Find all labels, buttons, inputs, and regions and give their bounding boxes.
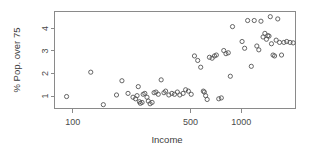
data-point — [282, 40, 286, 44]
data-point — [228, 74, 232, 78]
data-point — [252, 18, 256, 22]
plot-frame — [55, 12, 296, 109]
data-point — [259, 19, 263, 23]
data-point — [136, 85, 140, 89]
data-point — [277, 40, 281, 44]
data-point — [268, 15, 272, 19]
plot-canvas: 1005001000 1234 Income % Pop. over 75 — [0, 0, 309, 148]
data-point — [240, 39, 244, 43]
x-tick-label: 1000 — [231, 117, 251, 127]
data-point — [263, 31, 267, 35]
data-point — [192, 54, 196, 58]
y-axis-ticks — [51, 28, 55, 96]
data-point — [249, 64, 253, 68]
data-point — [205, 97, 209, 101]
data-point — [279, 53, 283, 57]
x-tick-label: 100 — [65, 117, 80, 127]
data-point — [276, 17, 280, 21]
data-point — [246, 18, 250, 22]
data-point — [189, 92, 193, 96]
data-point — [217, 97, 221, 101]
data-point — [64, 94, 68, 98]
data-point-group — [64, 15, 295, 107]
data-point — [243, 46, 247, 50]
y-tick-label: 4 — [41, 26, 51, 31]
data-point — [101, 103, 105, 107]
y-tick-label: 2 — [41, 71, 51, 76]
scatter-plot-figure: 1005001000 1234 Income % Pop. over 75 — [0, 0, 309, 148]
x-axis-title: Income — [151, 134, 182, 145]
data-point — [207, 55, 211, 59]
data-point — [120, 79, 124, 83]
x-tick-label: 500 — [183, 117, 198, 127]
data-point — [230, 25, 234, 29]
data-point — [199, 65, 203, 69]
data-point — [172, 92, 176, 96]
x-axis-tick-labels: 1005001000 — [65, 117, 251, 127]
y-tick-label: 3 — [41, 48, 51, 53]
data-point — [257, 48, 261, 52]
y-axis-title: % Pop. over 75 — [11, 28, 22, 93]
y-tick-label: 1 — [41, 94, 51, 99]
data-point — [196, 58, 200, 62]
data-point — [269, 42, 273, 46]
y-axis-tick-labels: 1234 — [41, 26, 51, 99]
x-axis-ticks — [73, 109, 242, 113]
data-point — [89, 70, 93, 74]
data-point — [219, 96, 223, 100]
data-point — [114, 93, 118, 97]
data-point — [126, 91, 130, 95]
data-point — [159, 78, 163, 82]
